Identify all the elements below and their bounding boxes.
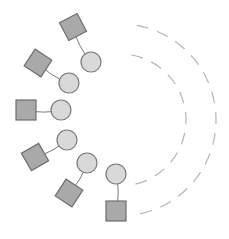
circle-node-5 <box>77 153 97 173</box>
radial-diagram <box>0 0 229 239</box>
nodes <box>16 13 126 221</box>
square-node-6 <box>106 201 126 221</box>
circle-node-2 <box>59 73 79 93</box>
square-node-2 <box>24 49 52 77</box>
circle-node-6 <box>106 164 126 184</box>
circle-node-1 <box>81 52 101 72</box>
square-node-5 <box>55 179 83 207</box>
outer-dashed-arc <box>137 25 216 214</box>
square-node-3 <box>16 100 36 120</box>
circle-node-3 <box>51 100 71 120</box>
dashed-arcs <box>131 25 216 214</box>
circle-node-4 <box>57 130 77 150</box>
square-node-4 <box>21 143 48 170</box>
square-node-1 <box>59 13 86 40</box>
inner-dashed-arc <box>131 55 186 185</box>
